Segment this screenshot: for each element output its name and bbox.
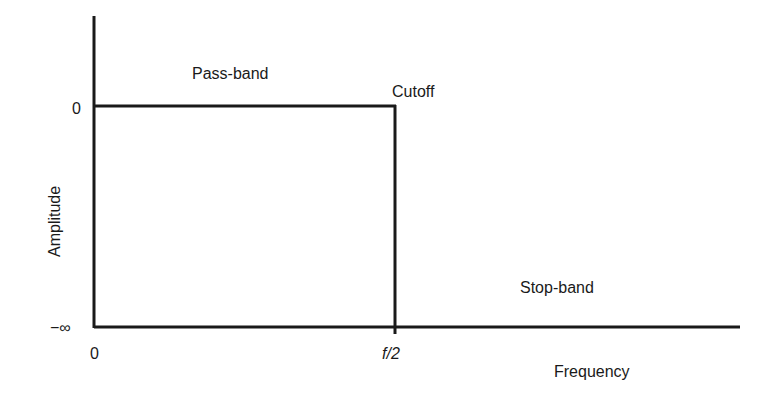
x-axis-label: Frequency xyxy=(554,364,630,380)
y-axis-label: Amplitude xyxy=(46,186,64,257)
pass-band-label: Pass-band xyxy=(192,66,269,82)
x-tick-f-half: f/2 xyxy=(382,346,400,362)
cutoff-label: Cutoff xyxy=(392,84,434,100)
y-tick-zero: 0 xyxy=(72,101,81,117)
x-tick-zero: 0 xyxy=(90,346,99,362)
stop-band-label: Stop-band xyxy=(520,280,594,296)
y-tick-neg-infinity: −∞ xyxy=(50,320,71,336)
filter-diagram: Pass-band Cutoff Stop-band 0 −∞ 0 f/2 Fr… xyxy=(0,0,773,414)
